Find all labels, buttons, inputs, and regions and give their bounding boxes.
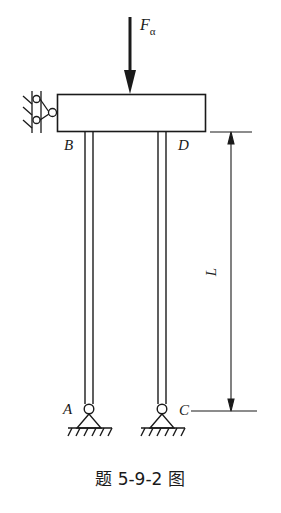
pin-support-a-icon bbox=[68, 404, 112, 436]
point-label-c: C bbox=[179, 402, 190, 418]
dimension-l bbox=[191, 132, 257, 411]
figure-caption: 题 5-9-2 图 bbox=[95, 469, 185, 489]
force-arrow bbox=[124, 17, 136, 94]
force-label: Fα bbox=[139, 16, 156, 37]
column-cd bbox=[158, 131, 166, 404]
point-label-d: D bbox=[177, 137, 189, 153]
point-label-a: A bbox=[62, 401, 73, 417]
rigid-beam bbox=[58, 95, 206, 132]
dimension-label-l: L bbox=[203, 268, 219, 277]
point-label-b: B bbox=[64, 137, 73, 153]
column-ab bbox=[85, 131, 93, 404]
roller-support-icon bbox=[23, 91, 57, 133]
diagram-canvas: Fα bbox=[0, 0, 281, 513]
